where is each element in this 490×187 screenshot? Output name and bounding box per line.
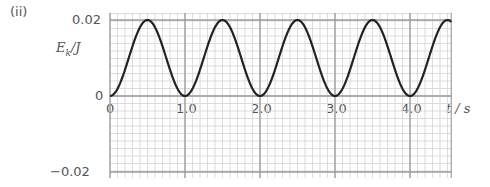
- ek-curve: [110, 20, 451, 96]
- chart-plot-area: [0, 0, 490, 187]
- major-grid: [110, 13, 451, 178]
